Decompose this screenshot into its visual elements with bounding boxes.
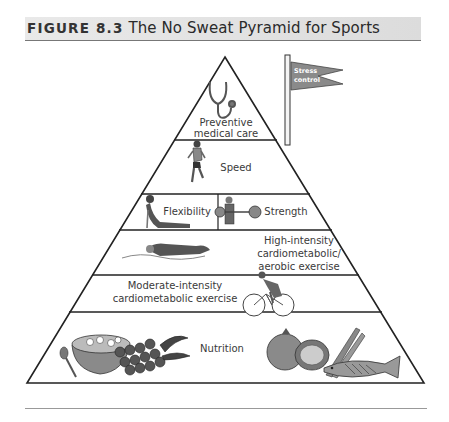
tier-6-label: Nutrition: [200, 343, 244, 354]
tier-3-right-label: Strength: [264, 206, 307, 217]
tier-5-label-line1: Moderate-intensity: [128, 280, 223, 291]
tier-4-label-line2: cardiometabolic/: [257, 248, 341, 259]
tier-5-label-line2: cardiometabolic exercise: [113, 293, 238, 304]
flag-icon: Stress control: [285, 55, 343, 145]
pyramid-diagram: Stress control Preventive medical care S…: [0, 0, 449, 422]
bottom-rule: [25, 408, 427, 409]
tier-1-label-line1: Preventive: [199, 117, 252, 128]
flag-label-line1: Stress: [294, 67, 317, 75]
tier-4-label-line3: aerobic exercise: [258, 261, 339, 272]
flag-label-line2: control: [294, 76, 320, 84]
tier-2-label: Speed: [220, 162, 251, 173]
tier-1-label-line2: medical care: [194, 128, 258, 139]
tier-4-label-line1: High-intensity: [264, 235, 334, 246]
tier-3-left-label: Flexibility: [163, 206, 211, 217]
